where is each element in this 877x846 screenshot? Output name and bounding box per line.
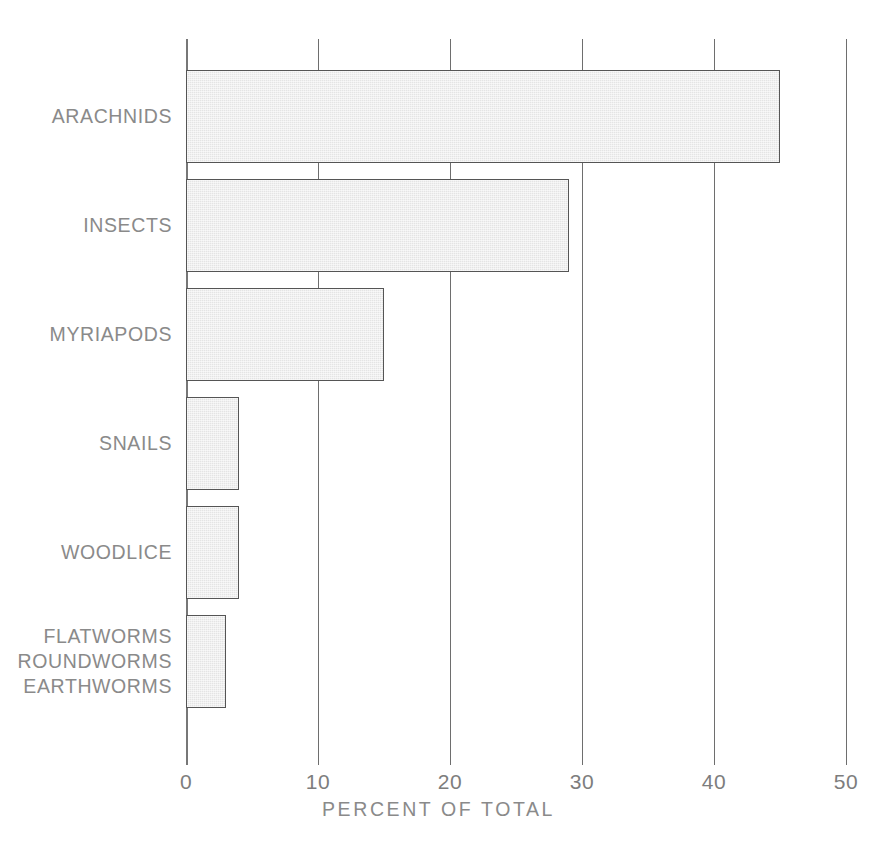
category-label-line: WOODLICE bbox=[61, 540, 172, 565]
bar-chart: ARACHNIDSINSECTSMYRIAPODSSNAILSWOODLICEF… bbox=[0, 0, 877, 846]
category-label-snails: SNAILS bbox=[99, 431, 172, 456]
bar-woodlice bbox=[186, 506, 239, 599]
gridline-50 bbox=[846, 39, 847, 765]
category-label-worms: FLATWORMSROUNDWORMSEARTHWORMS bbox=[18, 624, 172, 699]
x-tick-label-0: 0 bbox=[180, 770, 192, 794]
category-label-line: SNAILS bbox=[99, 431, 172, 456]
category-label-line: INSECTS bbox=[83, 213, 172, 238]
bar-arachnids bbox=[186, 70, 780, 163]
bar-snails bbox=[186, 397, 239, 490]
category-label-line: EARTHWORMS bbox=[18, 674, 172, 699]
category-label-woodlice: WOODLICE bbox=[61, 540, 172, 565]
x-tick-label-10: 10 bbox=[306, 770, 330, 794]
category-label-arachnids: ARACHNIDS bbox=[52, 104, 172, 129]
x-tick-label-50: 50 bbox=[834, 770, 858, 794]
category-label-line: MYRIAPODS bbox=[50, 322, 172, 347]
bar-myriapods bbox=[186, 288, 384, 381]
category-label-insects: INSECTS bbox=[83, 213, 172, 238]
category-label-line: ROUNDWORMS bbox=[18, 649, 172, 674]
x-tick-label-30: 30 bbox=[570, 770, 594, 794]
category-label-myriapods: MYRIAPODS bbox=[50, 322, 172, 347]
x-axis-title: PERCENT OF TOTAL bbox=[0, 798, 877, 821]
x-tick-label-20: 20 bbox=[438, 770, 462, 794]
bar-worms bbox=[186, 615, 226, 708]
category-label-line: FLATWORMS bbox=[18, 624, 172, 649]
bar-insects bbox=[186, 179, 569, 272]
x-tick-label-40: 40 bbox=[702, 770, 726, 794]
category-label-line: ARACHNIDS bbox=[52, 104, 172, 129]
